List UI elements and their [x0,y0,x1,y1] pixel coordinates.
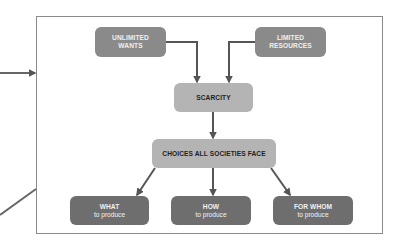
node-what-title: WHAT [100,203,120,211]
node-unlimited-wants: UNLIMITED WANTS [95,27,166,57]
node-what: WHAT to produce [70,196,149,225]
node-limited-resources-line2: RESOURCES [269,42,312,50]
node-how-subtitle: to produce [195,211,226,219]
node-for-whom-subtitle: to produce [297,211,328,219]
node-scarcity: SCARCITY [174,83,253,112]
node-how: HOW to produce [171,196,251,225]
node-how-title: HOW [203,203,219,211]
node-for-whom: FOR WHOM to produce [273,196,353,225]
node-what-subtitle: to produce [94,211,125,219]
node-limited-resources: LIMITED RESOURCES [255,27,326,57]
node-scarcity-label: SCARCITY [196,94,231,102]
node-unlimited-wants-line1: UNLIMITED [112,34,149,42]
node-for-whom-title: FOR WHOM [294,203,332,211]
node-choices: CHOICES ALL SOCIETIES FACE [152,139,276,168]
diagram-canvas: UNLIMITED WANTS LIMITED RESOURCES SCARCI… [0,0,399,250]
external-connector-line [0,189,36,215]
node-choices-label: CHOICES ALL SOCIETIES FACE [162,150,265,158]
node-unlimited-wants-line2: WANTS [118,42,142,50]
node-limited-resources-line1: LIMITED [277,34,304,42]
